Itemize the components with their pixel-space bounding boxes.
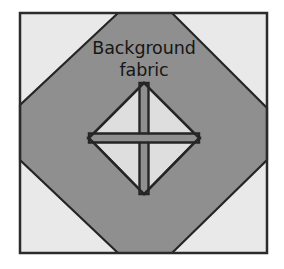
annotation-line-2: fabric xyxy=(119,60,168,80)
annotation-line-1: Background xyxy=(92,38,195,58)
quilt-block-illustration: Background fabric xyxy=(0,0,284,269)
quilt-block-figure: Background fabric xyxy=(0,0,284,269)
center-seam-horizontal xyxy=(89,134,199,143)
